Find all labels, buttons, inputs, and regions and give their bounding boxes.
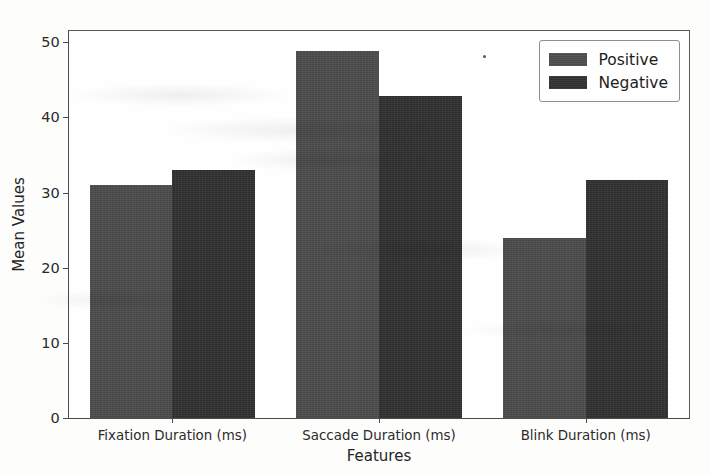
x-axis-title: Features bbox=[68, 447, 690, 465]
y-axis-tick-label: 30 bbox=[41, 185, 60, 201]
plot-area: Positive Negative 01020304050Fixation Du… bbox=[68, 30, 690, 419]
x-axis-tick-label: Blink Duration (ms) bbox=[521, 428, 651, 443]
y-axis-tick-label: 0 bbox=[51, 410, 60, 426]
legend-swatch-positive-icon bbox=[549, 53, 587, 66]
chart-legend: Positive Negative bbox=[539, 40, 680, 102]
y-axis-tick bbox=[63, 117, 69, 118]
y-axis-title: Mean Values bbox=[6, 30, 32, 419]
x-axis-tick bbox=[379, 418, 380, 423]
legend-entry-positive: Positive bbox=[549, 48, 668, 71]
x-axis-tick bbox=[172, 418, 173, 423]
bar-positive-2 bbox=[503, 238, 586, 418]
y-axis-tick bbox=[63, 193, 69, 194]
y-axis-tick bbox=[63, 343, 69, 344]
y-axis-tick-label: 20 bbox=[41, 260, 60, 276]
legend-label-negative: Negative bbox=[598, 74, 668, 92]
y-axis-tick bbox=[63, 268, 69, 269]
y-axis-tick bbox=[63, 418, 69, 419]
bar-positive-1 bbox=[296, 51, 379, 418]
bar-negative-2 bbox=[586, 180, 669, 418]
x-axis-tick bbox=[586, 418, 587, 423]
y-axis-tick-label: 50 bbox=[41, 34, 60, 50]
y-axis-tick bbox=[63, 42, 69, 43]
scan-speck bbox=[483, 55, 486, 58]
y-axis-tick-label: 40 bbox=[41, 109, 60, 125]
x-axis-tick-label: Fixation Duration (ms) bbox=[98, 428, 247, 443]
x-axis-tick-label: Saccade Duration (ms) bbox=[302, 428, 456, 443]
bar-negative-0 bbox=[172, 170, 255, 418]
y-axis-tick-label: 10 bbox=[41, 335, 60, 351]
bar-positive-0 bbox=[90, 185, 173, 418]
bar-chart-figure: Positive Negative 01020304050Fixation Du… bbox=[0, 0, 710, 475]
legend-swatch-negative-icon bbox=[549, 76, 587, 89]
bar-negative-1 bbox=[379, 96, 462, 418]
legend-label-positive: Positive bbox=[598, 51, 658, 69]
legend-entry-negative: Negative bbox=[549, 71, 668, 94]
